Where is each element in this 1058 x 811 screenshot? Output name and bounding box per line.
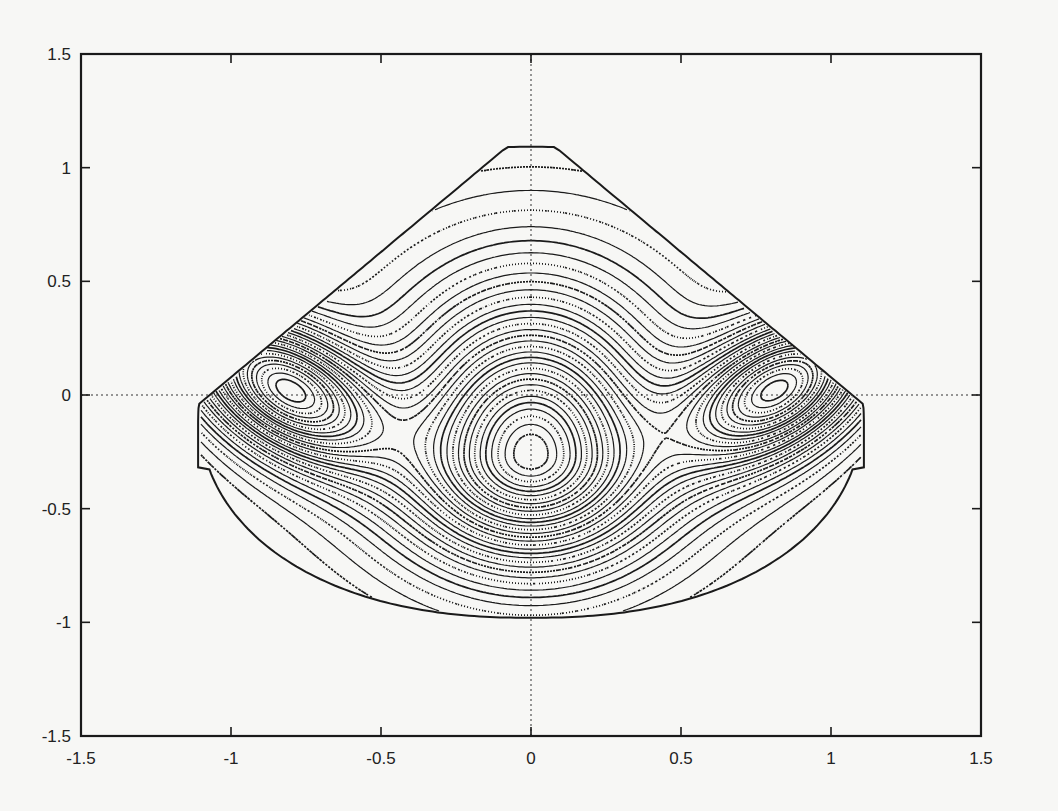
- y-tick-label: 0: [62, 386, 71, 405]
- x-tick-label: 1.5: [969, 749, 993, 768]
- x-tick-label: -1.5: [66, 749, 95, 768]
- y-tick-label: -1: [56, 613, 71, 632]
- y-axis-tick-labels: 1.5 1 0.5 0 -0.5 -1 -1.5: [42, 45, 71, 746]
- x-axis-tick-labels: -1.5 -1 -0.5 0 0.5 1 1.5: [66, 749, 992, 768]
- x-tick-label: -0.5: [366, 749, 395, 768]
- x-tick-label: 0.5: [669, 749, 693, 768]
- contour-line: [201, 167, 861, 597]
- outer-boundary-curve: [198, 147, 864, 618]
- x-tick-label: -1: [223, 749, 238, 768]
- y-tick-label: -1.5: [42, 727, 71, 746]
- contour-plot: -1.5 -1 -0.5 0 0.5 1 1.5 1.5 1 0.5 0 -0.…: [0, 0, 1058, 811]
- y-tick-label: 0.5: [47, 272, 71, 291]
- y-tick-label: 1.5: [47, 45, 71, 64]
- x-tick-label: 1: [826, 749, 835, 768]
- y-tick-label: -0.5: [42, 500, 71, 519]
- x-tick-label: 0: [526, 749, 535, 768]
- y-tick-label: 1: [62, 159, 71, 178]
